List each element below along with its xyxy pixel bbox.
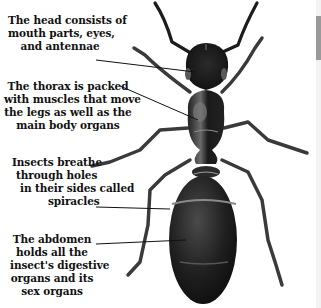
thorax-label-line: main body organs (4, 119, 132, 132)
spiracles-label-line: spiracles (8, 195, 116, 208)
spiracles-label: Insects breathe through holes in their s… (8, 156, 116, 208)
ant-head (186, 43, 228, 90)
thorax-label: The thorax is packed with muscles that m… (4, 80, 132, 132)
head-label-line: The head consists of (8, 14, 112, 27)
abdomen-label-line: holds all the (10, 246, 94, 259)
head-label: The head consists of mouth parts, eyes, … (8, 14, 112, 53)
abdomen-label-line: The abdomen (10, 233, 94, 246)
eye-left (185, 68, 191, 80)
spiracles-label-line: in their sides called (8, 182, 116, 195)
abdomen-label-line: sex organs (10, 285, 94, 298)
eye-right (221, 68, 227, 80)
ant-thorax (188, 90, 225, 164)
abdomen-label-line: organs and its (10, 272, 94, 285)
thorax-label-line: The thorax is packed (4, 80, 132, 93)
head-label-line: mouth parts, eyes, (8, 27, 112, 40)
spiracles-label-line: Insects breathe (8, 156, 116, 169)
abdomen-label-line: insect's digestive (10, 259, 94, 272)
thorax-label-line: the legs as well as the (4, 106, 132, 119)
spiracles-label-line: through holes (8, 169, 116, 182)
head-label-line: and antennae (8, 40, 112, 53)
abdomen-label: The abdomen holds all the insect's diges… (10, 233, 94, 298)
thorax-label-line: with muscles that move (4, 93, 132, 106)
